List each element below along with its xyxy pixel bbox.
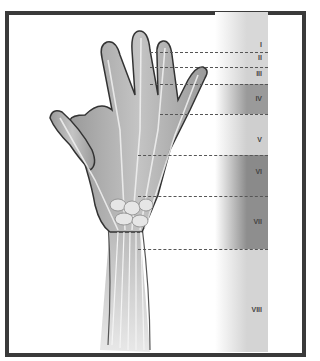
- zone-label: II: [258, 54, 262, 61]
- zone-strip: IIIIIIIVVVIVIIVIII: [215, 12, 268, 353]
- zone-boundary: [160, 114, 268, 115]
- zone-boundary: [138, 155, 268, 156]
- zone-boundary: [138, 249, 268, 250]
- zone-label: III: [256, 70, 262, 77]
- zone-boundary: [138, 196, 268, 197]
- zone-label: VII: [253, 218, 262, 225]
- zone-boundary: [150, 84, 268, 85]
- zone-band-vi: [215, 155, 268, 196]
- zone-boundary: [150, 67, 268, 68]
- zone-label: V: [257, 136, 262, 143]
- zone-label: VIII: [251, 306, 262, 313]
- palm: [70, 31, 207, 232]
- zone-label: VI: [255, 168, 262, 175]
- zone-band-viii: [215, 249, 268, 352]
- zone-boundary: [150, 52, 268, 53]
- zone-band-v: [215, 114, 268, 155]
- zone-label: I: [260, 41, 262, 48]
- zone-label: IV: [255, 95, 262, 102]
